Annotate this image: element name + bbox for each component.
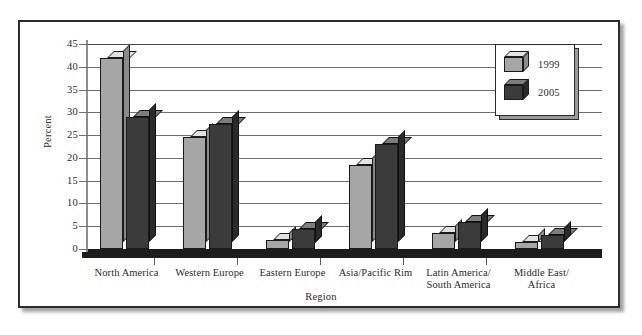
category-separator-tick (154, 258, 155, 265)
legend-label-2005: 2005 (538, 87, 560, 98)
bar-front-face (541, 235, 564, 249)
chart-legend: 1999 2005 (495, 44, 575, 116)
y-tick-label-text: 20 (54, 153, 78, 163)
bar-2005[interactable] (292, 229, 315, 250)
category-label: North America (83, 267, 170, 279)
legend-label-1999: 1999 (538, 59, 560, 70)
bar-1999[interactable] (349, 165, 372, 249)
y-tick-label-text: 30 (54, 107, 78, 117)
x-axis-title: Region (20, 291, 622, 302)
bar-side-face (232, 110, 239, 242)
plot-area: 051015202530354045 North AmericaWestern … (20, 22, 622, 310)
bar-2005[interactable] (458, 222, 481, 249)
y-tick-label-text: 10 (54, 198, 78, 208)
y-tick-label: 25 (48, 130, 78, 140)
category-separator-tick (403, 258, 404, 265)
bar-1999[interactable] (515, 242, 538, 249)
bar-front-face (126, 117, 149, 249)
y-tick-label-text: 5 (54, 221, 78, 231)
bar-front-face (515, 242, 538, 249)
category-separator-tick (320, 258, 321, 265)
y-tick-label: 40 (48, 62, 78, 72)
dark-cube-icon (504, 85, 523, 100)
light-cube-icon (504, 57, 523, 72)
category-label: Latin America/South America (415, 267, 502, 291)
bar-1999[interactable] (100, 58, 123, 249)
y-tick-mark (79, 158, 88, 159)
bar-top-face (107, 51, 137, 58)
y-tick-label-text: 40 (54, 62, 78, 72)
y-tick-label: 35 (48, 85, 78, 95)
y-tick-mark (79, 135, 88, 136)
bar-front-face (183, 137, 206, 249)
y-tick-label: 15 (48, 176, 78, 186)
bar-front-face (266, 240, 289, 249)
y-tick-mark (79, 67, 88, 68)
y-axis-title: Percent (42, 102, 53, 162)
y-tick-label: 10 (48, 198, 78, 208)
bar-group (432, 39, 485, 249)
category-label: Asia/Pacific Rim (332, 267, 419, 279)
y-tick-mark (79, 203, 88, 204)
bar-side-face (481, 208, 488, 242)
bar-side-face (315, 215, 322, 243)
y-tick-mark (79, 226, 88, 227)
category-label-line: Eastern Europe (249, 267, 336, 279)
category-label-line: Middle East/ (498, 267, 585, 279)
y-tick-mark (79, 112, 88, 113)
bar-top-face (465, 215, 495, 222)
y-tick-label: 5 (48, 221, 78, 231)
bar-side-face (398, 130, 405, 242)
y-tick-mark (79, 249, 88, 250)
y-tick-mark (79, 181, 88, 182)
bar-front-face (100, 58, 123, 249)
category-label-line: Asia/Pacific Rim (332, 267, 419, 279)
y-tick-label: 20 (48, 153, 78, 163)
bar-front-face (458, 222, 481, 249)
y-tick-label: 30 (48, 107, 78, 117)
bar-side-face (149, 103, 156, 242)
bar-top-face (216, 117, 246, 124)
category-label-line: Africa (498, 279, 585, 291)
bar-group (183, 39, 236, 249)
bar-group (266, 39, 319, 249)
bar-top-face (548, 228, 578, 235)
y-tick-label: 0 (48, 244, 78, 254)
bar-side-face (564, 221, 571, 242)
category-separator-tick (486, 258, 487, 265)
y-tick-label-text: 0 (54, 244, 78, 254)
y-tick-mark (79, 90, 88, 91)
y-axis-line (86, 40, 88, 254)
bar-front-face (375, 144, 398, 249)
y-tick-label-text: 25 (54, 130, 78, 140)
category-label-line: North America (83, 267, 170, 279)
bar-2005[interactable] (209, 124, 232, 249)
bar-group (100, 39, 153, 249)
category-label-line: South America (415, 279, 502, 291)
category-label-line: Western Europe (166, 267, 253, 279)
bar-1999[interactable] (432, 233, 455, 249)
y-tick-label: 45 (48, 39, 78, 49)
bar-2005[interactable] (375, 144, 398, 249)
category-label: Western Europe (166, 267, 253, 279)
bar-top-face (133, 110, 163, 117)
bar-front-face (432, 233, 455, 249)
legend-entry-2005: 2005 (504, 81, 570, 107)
category-label: Middle East/Africa (498, 267, 585, 291)
y-tick-label-text: 45 (54, 39, 78, 49)
bar-2005[interactable] (541, 235, 564, 249)
bar-top-face (299, 222, 329, 229)
legend-entry-1999: 1999 (504, 53, 570, 79)
chart-floor-3d (88, 249, 602, 258)
chart-figure-frame: 051015202530354045 North AmericaWestern … (18, 20, 620, 308)
bar-1999[interactable] (266, 240, 289, 249)
bar-1999[interactable] (183, 137, 206, 249)
bar-front-face (209, 124, 232, 249)
bar-2005[interactable] (126, 117, 149, 249)
bar-group (349, 39, 402, 249)
category-separator-tick (237, 258, 238, 265)
bar-front-face (292, 229, 315, 250)
y-tick-label-text: 35 (54, 85, 78, 95)
y-tick-mark (79, 44, 88, 45)
category-label-line: Latin America/ (415, 267, 502, 279)
